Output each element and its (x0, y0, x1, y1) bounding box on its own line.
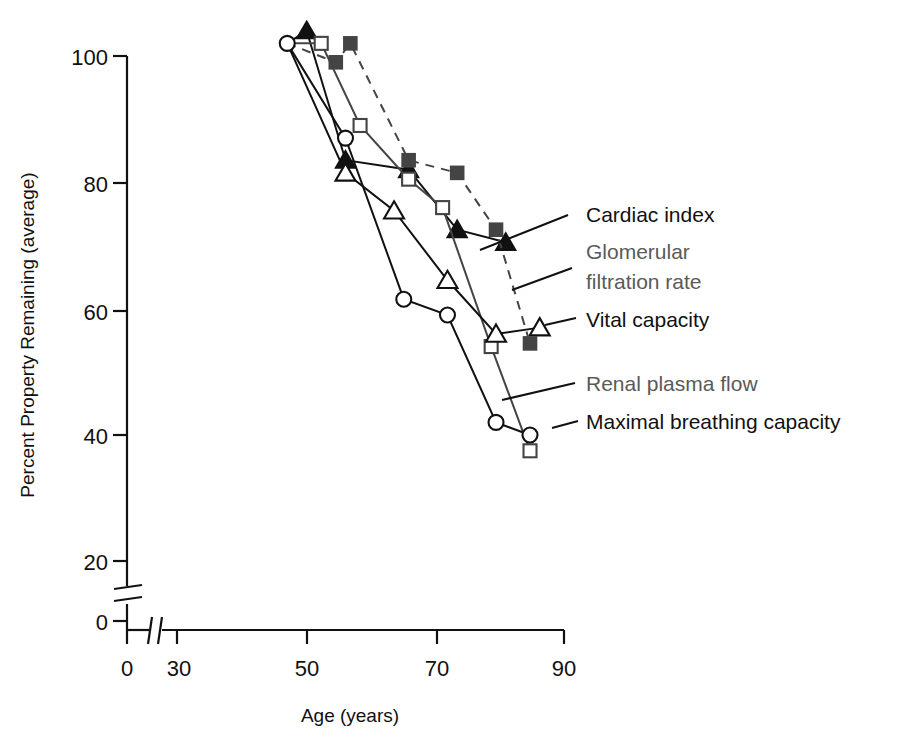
filled-square-marker (451, 166, 464, 179)
y-axis-break (114, 585, 142, 601)
open-circle-marker (440, 307, 455, 322)
label-glomerular-line1: Glomerular (586, 240, 690, 263)
x-axis (127, 617, 564, 644)
leader-glomerular-filtration-rate (512, 268, 572, 290)
open-square-marker (315, 37, 328, 50)
open-circle-marker (396, 292, 411, 307)
label-glomerular-line2: filtration rate (586, 270, 702, 293)
y-tick-label-0: 0 (96, 610, 108, 635)
leader-lines (480, 215, 578, 428)
chart-canvas: 100 80 60 40 20 0 0 30 50 70 90 Age (yea… (0, 0, 901, 744)
series-line-vital-capacity (287, 43, 539, 334)
open-triangle-marker (437, 271, 457, 288)
open-square-marker (436, 201, 449, 214)
open-circle-marker (280, 36, 295, 51)
x-axis-title: Age (years) (301, 705, 399, 726)
filled-square-marker (490, 223, 503, 236)
label-cardiac-index: Cardiac index (586, 203, 715, 226)
filled-square-marker (329, 56, 342, 69)
y-tick-label-80: 80 (84, 172, 108, 197)
x-tick-label-50: 50 (295, 656, 319, 681)
open-triangle-marker (384, 201, 404, 218)
series-maximal-breathing-capacity (280, 36, 538, 443)
x-axis-break (148, 617, 162, 644)
filled-triangle-marker (297, 21, 317, 38)
x-tick-label-90: 90 (552, 656, 576, 681)
open-triangle-marker (530, 318, 550, 335)
open-circle-marker (338, 131, 353, 146)
y-tick-label-100: 100 (71, 45, 108, 70)
y-axis (113, 56, 142, 630)
leader-vital-capacity (545, 318, 576, 325)
filled-square-marker (524, 337, 537, 350)
filled-square-marker (402, 154, 415, 167)
leader-renal-plasma-flow (502, 383, 575, 400)
leader-maximal-breathing-capacity (552, 421, 578, 428)
series-vital-capacity (287, 43, 549, 341)
y-tick-label-40: 40 (84, 424, 108, 449)
filled-square-marker (344, 37, 357, 50)
x-tick-label-0: 0 (121, 656, 133, 681)
label-vital-capacity: Vital capacity (586, 308, 710, 331)
open-square-marker (402, 173, 415, 186)
y-axis-title: Percent Property Remaining (average) (17, 172, 38, 497)
y-tick-label-20: 20 (84, 550, 108, 575)
x-tick-label-30: 30 (167, 656, 191, 681)
x-tick-label-70: 70 (425, 656, 449, 681)
open-circle-marker (523, 428, 538, 443)
open-circle-marker (489, 415, 504, 430)
open-square-marker (354, 119, 367, 132)
open-square-marker (524, 444, 537, 457)
y-tick-label-60: 60 (84, 300, 108, 325)
figure-container: 100 80 60 40 20 0 0 30 50 70 90 Age (yea… (0, 0, 901, 744)
label-maximal-breathing-capacity: Maximal breathing capacity (586, 410, 841, 433)
label-renal-plasma-flow: Renal plasma flow (586, 372, 758, 395)
